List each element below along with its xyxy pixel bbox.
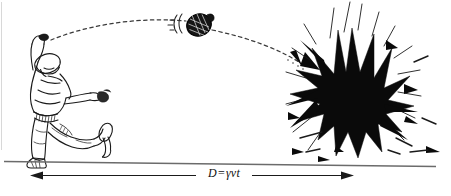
back-boot — [99, 123, 112, 141]
helmet — [32, 51, 62, 76]
knee-crease-1 — [52, 128, 67, 137]
torso-front-lower — [57, 98, 66, 114]
trailing-arm-bottom — [64, 100, 90, 104]
torso-back — [30, 72, 35, 112]
chest-fold-3 — [35, 100, 60, 104]
distance-symbol: D — [208, 166, 217, 180]
front-leg-back — [32, 119, 36, 158]
physics-figure: D=γvt — [0, 0, 451, 196]
dashed-trajectory-descent — [212, 30, 305, 66]
belt-top — [34, 112, 57, 116]
front-shoulder-seam — [60, 74, 71, 99]
right-arrowhead — [341, 172, 354, 180]
front-leg-front — [45, 122, 49, 159]
distance-label: D=γvt — [196, 166, 252, 180]
collar — [48, 76, 62, 81]
thrower-figure — [27, 34, 112, 168]
trailing-arm-top — [66, 93, 91, 98]
equals-sign: = — [217, 166, 226, 180]
face-line — [44, 68, 54, 69]
throwing-arm-back — [31, 44, 33, 70]
throwing-hand — [39, 34, 49, 41]
chest-fold-1 — [41, 80, 60, 83]
throwing-forearm-inner — [38, 44, 44, 62]
thigh-crease — [36, 130, 46, 132]
left-arrowhead — [30, 172, 43, 180]
time-symbol: t — [236, 166, 240, 180]
speed-lines — [168, 14, 182, 33]
distance-dimension-arrow — [30, 172, 354, 180]
chest-fold-2 — [38, 90, 60, 94]
trailing-hand — [97, 92, 108, 102]
dashed-trajectory-arc — [51, 20, 186, 40]
trailing-thumb — [104, 90, 111, 92]
grenade-projectile — [183, 10, 214, 39]
pouch-edge — [60, 124, 72, 135]
back-boot-sole — [108, 137, 111, 150]
shin-crease — [34, 142, 45, 144]
